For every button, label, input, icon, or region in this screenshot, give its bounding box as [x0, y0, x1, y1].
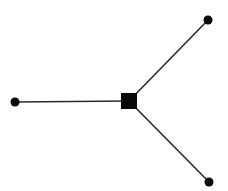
node-leaf-top-right	[204, 16, 213, 25]
node-leaf-bottom-right	[205, 178, 214, 187]
node-leaf-left	[11, 98, 20, 107]
diagram-background	[0, 0, 228, 191]
star-graph-diagram	[0, 0, 228, 191]
edge-hub-to-leaf-left	[15, 101, 129, 102]
node-hub-square	[121, 93, 137, 109]
